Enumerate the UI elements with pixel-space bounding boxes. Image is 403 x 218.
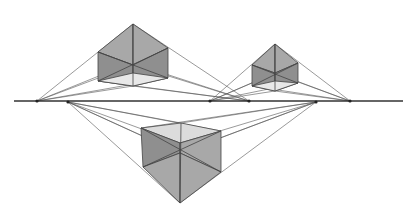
- vanishing-point-vp-a: [35, 99, 38, 102]
- perspective-diagram: [0, 0, 403, 218]
- vanishing-point-vp-e: [314, 100, 317, 103]
- vanishing-point-vp-d: [247, 99, 250, 102]
- vanishing-point-vp-f: [348, 99, 351, 102]
- vanishing-point-vp-c: [208, 99, 211, 102]
- vanishing-point-vp-b: [66, 100, 69, 103]
